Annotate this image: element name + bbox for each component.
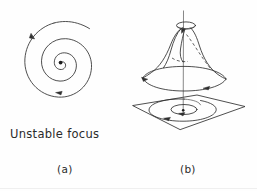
surface-trajectory xyxy=(180,29,185,62)
trumpet-right-profile xyxy=(191,28,227,79)
figure-canvas xyxy=(0,0,257,191)
figure-root: Unstable focus (a) (b) xyxy=(0,0,257,191)
plane-center-dot xyxy=(182,109,185,112)
panel-a-caption: (a) xyxy=(57,163,73,175)
spiral-path xyxy=(25,23,92,97)
panel-a-group xyxy=(25,21,92,97)
spiral-tail xyxy=(54,21,90,28)
equilibrium-point-dot xyxy=(59,61,63,65)
trumpet-inner-throat-left xyxy=(164,29,182,68)
panel-b-caption: (b) xyxy=(180,163,196,175)
hidden-throat-arc xyxy=(172,58,188,62)
plane-spiral-inner xyxy=(185,99,201,105)
bottom-rule xyxy=(0,188,257,189)
bell-rim-front xyxy=(143,78,226,91)
spiral-inward-arrow-lower xyxy=(56,91,63,95)
panel-b-group xyxy=(133,11,245,130)
bell-rim-back xyxy=(143,66,226,79)
cone-rim-arrow-left xyxy=(142,77,148,81)
unstable-focus-label: Unstable focus xyxy=(10,127,99,141)
